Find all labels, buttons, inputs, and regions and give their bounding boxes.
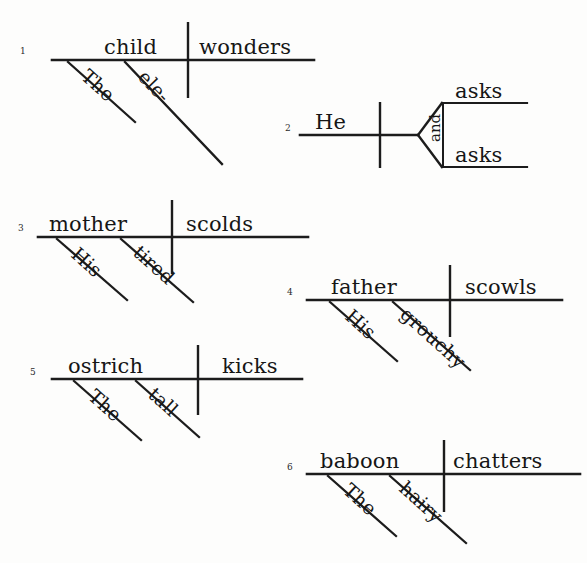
- diagram-number-4: 4: [287, 287, 293, 297]
- diagram-number-1: 1: [20, 46, 26, 56]
- predicate-word-3: scolds: [186, 212, 253, 236]
- predicate-word-1: wonders: [199, 35, 291, 59]
- subject-word-4: father: [331, 275, 398, 299]
- sentence-diagram-6[interactable]: 6 baboon chatters The hairy: [287, 440, 580, 543]
- sentence-diagram-1[interactable]: 1 child wonders The ele-: [20, 22, 314, 164]
- modifier-word-5b: tall: [144, 383, 182, 421]
- modifier-word-1b: ele-: [134, 65, 175, 106]
- subject-word-5: ostrich: [68, 354, 143, 378]
- sentence-diagram-3[interactable]: 3 mother scolds His tired: [18, 200, 308, 302]
- sentence-diagram-4[interactable]: 4 father scowls His grouchy: [287, 265, 562, 373]
- diagram-number-3: 3: [18, 223, 24, 233]
- sentence-diagram-canvas: 1 child wonders The ele- 2 He asks asks …: [0, 0, 587, 563]
- predicate-word-6: chatters: [453, 449, 543, 473]
- modifier-word-6a: The: [339, 479, 381, 520]
- modifier-word-1a: The: [77, 65, 119, 106]
- diagram-number-2: 2: [285, 123, 291, 133]
- modifier-word-4b: grouchy: [396, 303, 470, 373]
- diagram-number-6: 6: [287, 462, 293, 472]
- worksheet-sheet: 1 child wonders The ele- 2 He asks asks …: [0, 0, 587, 563]
- predicate-word-2a: asks: [455, 79, 503, 103]
- predicate-word-2b: asks: [455, 143, 503, 167]
- modifier-word-4a: His: [341, 305, 380, 343]
- conjunction-word-2: and: [426, 113, 444, 142]
- modifier-word-5a: The: [84, 385, 126, 426]
- predicate-word-5: kicks: [222, 354, 278, 378]
- subject-word-1: child: [104, 35, 157, 59]
- diagram-number-5: 5: [30, 367, 36, 377]
- sentence-diagram-2[interactable]: 2 He asks asks and: [285, 79, 527, 168]
- subject-word-3: mother: [49, 212, 128, 236]
- predicate-word-4: scowls: [465, 275, 537, 299]
- subject-word-6: baboon: [320, 449, 399, 473]
- sentence-diagram-5[interactable]: 5 ostrich kicks The tall: [30, 345, 302, 440]
- subject-word-2: He: [315, 110, 346, 134]
- modifier-word-3a: His: [67, 243, 106, 281]
